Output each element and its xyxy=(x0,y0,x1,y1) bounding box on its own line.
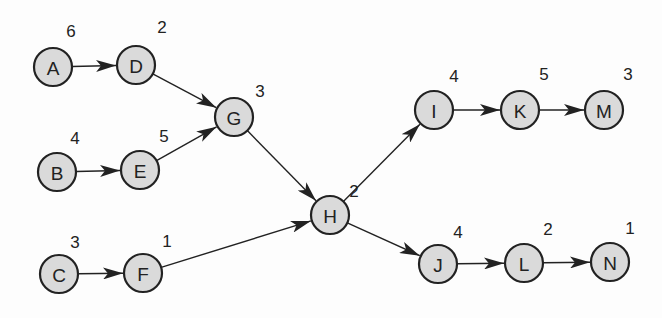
node-label: H xyxy=(323,206,337,227)
node-weight: 2 xyxy=(349,182,358,201)
node-weight: 4 xyxy=(70,129,79,148)
node-label: B xyxy=(51,163,64,184)
node-label: M xyxy=(596,101,612,122)
node-l: L2 xyxy=(505,220,553,282)
node-label: E xyxy=(134,161,147,182)
node-h: H2 xyxy=(311,182,359,234)
node-weight: 3 xyxy=(623,65,632,84)
edge-f-h xyxy=(161,221,311,267)
node-weight: 2 xyxy=(157,18,166,37)
node-c: C3 xyxy=(40,233,80,293)
edge-h-j xyxy=(347,223,419,256)
edge-g-h xyxy=(247,131,316,201)
node-label: C xyxy=(52,265,66,286)
node-label: A xyxy=(47,58,60,79)
node-weight: 5 xyxy=(539,65,548,84)
node-a: A6 xyxy=(34,22,76,86)
node-label: F xyxy=(137,264,149,285)
edge-a-d xyxy=(72,65,116,66)
node-weight: 3 xyxy=(255,82,264,101)
node-f: F1 xyxy=(124,232,172,292)
node-n: N1 xyxy=(591,219,635,281)
node-label: I xyxy=(431,101,436,122)
node-label: K xyxy=(514,101,527,122)
edge-c-f xyxy=(78,273,123,274)
node-label: L xyxy=(519,254,530,275)
node-weight: 6 xyxy=(66,22,75,41)
edge-l-n xyxy=(543,262,590,263)
node-weight: 4 xyxy=(453,223,462,242)
network-diagram: A6B4C3D2E5F1G3H2I4J4K5L2M3N1 xyxy=(0,0,662,318)
node-g: G3 xyxy=(215,82,265,136)
edge-b-e xyxy=(76,170,120,171)
node-weight: 4 xyxy=(449,67,458,86)
node-weight: 1 xyxy=(162,232,171,251)
node-weight: 3 xyxy=(70,233,79,252)
edge-j-l xyxy=(457,263,504,264)
node-b: B4 xyxy=(38,129,80,191)
node-j: J4 xyxy=(419,223,463,283)
node-d: D2 xyxy=(117,18,167,84)
node-label: J xyxy=(433,255,443,276)
node-weight: 5 xyxy=(159,127,168,146)
edge-d-g xyxy=(153,74,217,108)
node-label: N xyxy=(603,253,617,274)
node-i: I4 xyxy=(415,67,459,129)
node-m: M3 xyxy=(585,65,633,129)
node-k: K5 xyxy=(501,65,549,129)
node-label: D xyxy=(129,56,143,77)
node-weight: 1 xyxy=(625,219,634,238)
node-weight: 2 xyxy=(543,220,552,239)
node-label: G xyxy=(227,108,242,129)
